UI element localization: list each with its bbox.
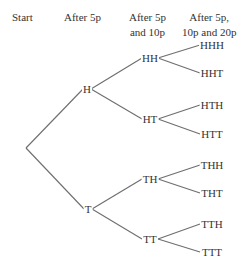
node-HTH: HTH [200,99,225,111]
header-level3-line1: After 5p, [182,10,236,25]
edge-TH-THH [158,165,200,179]
node-HHH: HHH [199,39,225,51]
edge-HH-HHH [158,45,200,58]
edge-H-HT [91,89,142,119]
edge-HT-HTH [158,105,200,119]
header-level1-label: After 5p [64,11,101,23]
node-THT: THT [200,187,223,199]
node-T: T [84,203,93,215]
node-HTT: HTT [200,128,223,140]
node-TTT: TTT [201,246,223,258]
header-start-label: Start [12,11,33,23]
edge-start-H [26,89,83,148]
header-level3-line2: 10p and 20p [182,25,236,40]
edge-HH-HHT [158,58,200,73]
node-TT: TT [142,233,157,245]
node-TH: TH [142,173,159,185]
header-level2-line2: and 10p [129,25,166,40]
node-HHT: HHT [200,67,225,79]
node-TTH: TTH [200,218,223,230]
edge-T-TT [92,209,142,239]
edge-T-TH [92,179,142,209]
edge-H-HH [91,58,142,89]
edge-TT-TTH [158,224,200,239]
edge-TT-TTT [158,239,200,252]
edge-HT-HTT [158,119,200,134]
node-HH: HH [141,52,159,64]
header-start: Start [12,10,33,25]
node-HT: HT [142,113,159,125]
probability-tree-diagram: Start After 5p After 5p and 10p After 5p… [0,0,250,270]
header-level1: After 5p [64,10,101,25]
header-level2-line1: After 5p [129,10,166,25]
edge-start-T [26,148,84,209]
edge-TH-THT [158,179,200,193]
header-level3: After 5p, 10p and 20p [182,10,236,40]
header-level2: After 5p and 10p [129,10,166,40]
node-THH: THH [200,159,225,171]
node-H: H [82,83,92,95]
